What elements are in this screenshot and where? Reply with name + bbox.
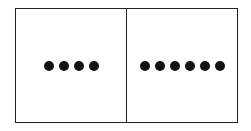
- domino-right-half: [127, 9, 237, 122]
- dot: [59, 61, 69, 71]
- dot: [215, 61, 225, 71]
- dot: [185, 61, 195, 71]
- dot: [170, 61, 180, 71]
- domino-tile: [15, 8, 238, 123]
- domino-left-half: [16, 9, 127, 122]
- dot: [200, 61, 210, 71]
- dot: [44, 61, 54, 71]
- dot: [155, 61, 165, 71]
- dot: [89, 61, 99, 71]
- dot: [140, 61, 150, 71]
- dot: [74, 61, 84, 71]
